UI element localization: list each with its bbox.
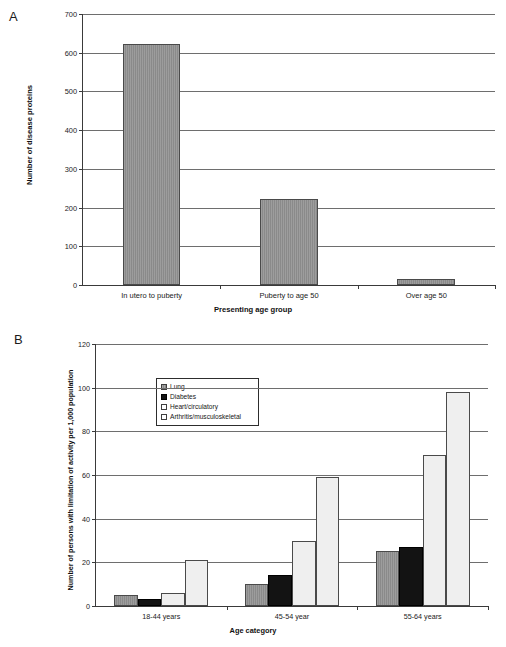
legend-item-arthritis-musculoskeletal: Arthritis/musculoskeletal (161, 412, 253, 422)
gridline (96, 431, 488, 432)
legend-label: Diabetes (170, 393, 196, 401)
legend-swatch-icon (161, 414, 167, 420)
bar (138, 599, 162, 606)
panel-a-letter: A (9, 9, 18, 24)
x-tick-mark (358, 285, 359, 289)
y-tick-label: 0 (73, 281, 77, 290)
panel-a-plot-area: 0100200300400500600700In utero to pubert… (82, 14, 495, 286)
y-tick-mark (79, 91, 83, 92)
y-tick-mark (92, 475, 96, 476)
legend-swatch-icon (161, 394, 167, 400)
two-panel-bar-figure: A Number of disease proteins 01002003004… (0, 0, 506, 647)
y-tick-mark (79, 130, 83, 131)
y-tick-mark (92, 606, 96, 607)
bar (268, 575, 292, 606)
y-tick-label: 200 (65, 203, 77, 212)
y-tick-mark (92, 388, 96, 389)
y-tick-mark (79, 169, 83, 170)
y-tick-mark (79, 285, 83, 286)
y-tick-label: 100 (65, 242, 77, 251)
bar (185, 560, 209, 606)
panel-a-x-axis-title: Presenting age group (0, 305, 506, 314)
x-tick-mark (357, 606, 358, 610)
legend-label: Arthritis/musculoskeletal (170, 413, 241, 421)
panel-b-y-axis-title: Number of persons with limitation of act… (67, 360, 75, 600)
bar (260, 199, 318, 285)
y-tick-mark (92, 431, 96, 432)
panel-b-plot-area: LungDiabetesHeart/circulatoryArthritis/m… (95, 344, 488, 607)
panel-a: A Number of disease proteins 01002003004… (0, 0, 506, 330)
y-tick-label: 700 (65, 10, 77, 19)
panel-b: B Number of persons with limitation of a… (0, 330, 506, 647)
x-tick-label: 45-54 year (275, 612, 309, 621)
gridline (83, 14, 495, 15)
x-tick-label: 55-64 years (404, 612, 442, 621)
x-tick-mark (227, 606, 228, 610)
y-tick-label: 600 (65, 48, 77, 57)
bar (161, 593, 185, 606)
bar (423, 455, 447, 606)
y-tick-label: 40 (82, 514, 90, 523)
x-tick-label: Puberty to age 50 (259, 291, 318, 300)
y-tick-mark (79, 53, 83, 54)
bar (446, 392, 470, 606)
legend-label: Heart/circulatory (170, 403, 218, 411)
y-tick-label: 60 (82, 471, 90, 480)
bar (399, 547, 423, 606)
panel-b-legend: LungDiabetesHeart/circulatoryArthritis/m… (156, 378, 259, 426)
panel-b-letter: B (14, 332, 23, 347)
x-tick-mark (488, 606, 489, 610)
legend-item-heart-circulatory: Heart/circulatory (161, 402, 253, 412)
y-tick-label: 500 (65, 87, 77, 96)
gridline (96, 388, 488, 389)
legend-swatch-icon (161, 404, 167, 410)
y-tick-mark (79, 208, 83, 209)
gridline (96, 344, 488, 345)
y-tick-label: 20 (82, 558, 90, 567)
y-tick-mark (92, 344, 96, 345)
y-tick-label: 80 (82, 427, 90, 436)
x-tick-label: Over age 50 (406, 291, 447, 300)
y-tick-label: 0 (86, 602, 90, 611)
bar (292, 541, 316, 607)
y-tick-label: 100 (78, 383, 90, 392)
y-tick-label: 400 (65, 126, 77, 135)
panel-a-y-axis-title: Number of disease proteins (25, 35, 34, 235)
y-tick-mark (79, 246, 83, 247)
panel-b-x-axis-title: Age category (0, 626, 506, 635)
bar (123, 44, 181, 285)
x-tick-label: In utero to puberty (121, 291, 182, 300)
x-tick-mark (220, 285, 221, 289)
bar (245, 584, 269, 606)
bar (376, 551, 400, 606)
bar (316, 477, 340, 606)
bar (397, 279, 455, 285)
y-tick-mark (79, 14, 83, 15)
y-tick-label: 300 (65, 164, 77, 173)
x-tick-label: 18-44 years (142, 612, 180, 621)
legend-item-diabetes: Diabetes (161, 392, 253, 402)
y-tick-label: 120 (78, 340, 90, 349)
x-tick-mark (495, 285, 496, 289)
bar (114, 595, 138, 606)
y-tick-mark (92, 562, 96, 563)
y-tick-mark (92, 519, 96, 520)
